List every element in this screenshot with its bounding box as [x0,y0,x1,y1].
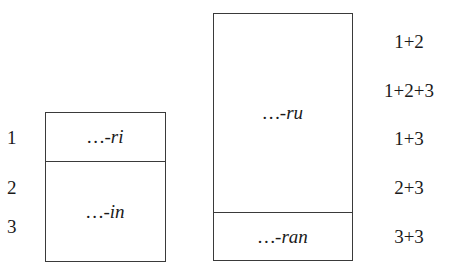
sum-label-4: 2+3 [364,177,453,199]
left-box: …-ri …-in [45,112,166,262]
sum-label-1: 1+2 [364,31,453,53]
sum-label-3: 1+3 [364,128,453,150]
row-label-1: 1 [7,127,17,149]
row-label-2: 2 [7,177,17,199]
left-bottom-cell: …-in [46,163,165,261]
sum-label-2: 1+2+3 [364,80,453,102]
left-divider [46,161,165,162]
right-bottom-cell: …-ran [214,214,352,260]
row-label-3: 3 [7,216,17,238]
right-box: …-ru …-ran [213,13,353,261]
right-divider [214,212,352,213]
left-top-cell: …-ri [46,113,165,161]
sum-label-5: 3+3 [364,226,453,248]
right-top-cell: …-ru [214,14,352,212]
